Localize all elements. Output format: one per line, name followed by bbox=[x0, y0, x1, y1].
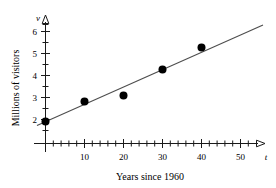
x-axis-variable-label: t bbox=[265, 152, 268, 162]
y-tick-label-6: 6 bbox=[33, 27, 38, 37]
y-tick-label-4: 4 bbox=[33, 71, 38, 81]
x-tick-label-30: 30 bbox=[158, 152, 168, 162]
data-point bbox=[198, 44, 206, 52]
x-tick-label-40: 40 bbox=[197, 152, 207, 162]
y-tick-label-3: 3 bbox=[33, 93, 38, 103]
scatter-plot-figure: 6 5 4 3 2 v Millions of visitors bbox=[0, 0, 276, 188]
trend-line bbox=[37, 25, 263, 126]
chart-canvas: 6 5 4 3 2 v Millions of visitors bbox=[0, 0, 276, 188]
x-tick-label-10: 10 bbox=[80, 152, 90, 162]
y-tick-label-5: 5 bbox=[33, 49, 38, 59]
y-axis-group: 6 5 4 3 2 v Millions of visitors bbox=[10, 13, 50, 152]
x-axis-group: 10 20 30 40 50 t Years since 1960 bbox=[34, 139, 268, 182]
data-point-group bbox=[42, 44, 206, 126]
data-point bbox=[120, 92, 128, 100]
x-tick-label-50: 50 bbox=[236, 152, 246, 162]
x-axis-title: Years since 1960 bbox=[116, 171, 184, 182]
data-point bbox=[42, 118, 50, 126]
x-tick-label-20: 20 bbox=[119, 152, 129, 162]
y-tick-label-2: 2 bbox=[33, 115, 38, 125]
y-axis-title: Millions of visitors bbox=[10, 50, 21, 127]
data-point bbox=[81, 98, 89, 106]
data-point bbox=[159, 66, 167, 74]
y-axis-variable-label: v bbox=[36, 13, 40, 23]
